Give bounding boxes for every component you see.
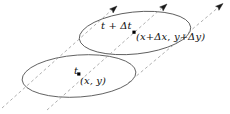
figure-canvas (0, 0, 230, 114)
flow-line-left (2, 8, 114, 108)
arrow-head-icon-right (216, 2, 225, 11)
coord-delta-x: Δx (154, 31, 167, 42)
coord-delta-y: Δy (188, 31, 201, 42)
paren-close: ) (201, 31, 205, 42)
upper-surface-coordinate-label: (x+Δx, y+Δy) (136, 32, 205, 42)
arrow-head-icon-left (110, 4, 119, 13)
plus-sign-2: + (180, 31, 188, 42)
lower-surface-time-label: t (74, 66, 78, 76)
flow-map-figure: t + Δt (x+Δx, y+Δy) t (x, y) (0, 0, 230, 114)
arrow-head-icon-middle (160, 2, 169, 11)
plus-sign-1: + (146, 31, 154, 42)
upper-surface-time-label: t + Δt (101, 21, 132, 31)
lower-surface-coordinate-label: (x, y) (80, 76, 106, 86)
lower-surface-ellipse (21, 51, 138, 101)
